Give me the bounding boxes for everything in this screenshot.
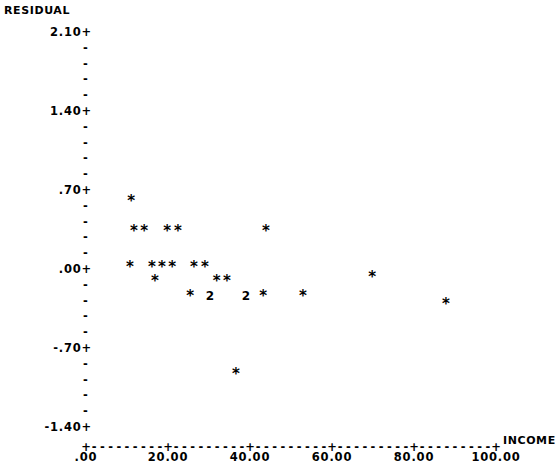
x-axis-title: INCOME — [503, 434, 556, 447]
data-point-marker: * — [158, 259, 166, 274]
x-axis-tick-label: .00 — [75, 450, 98, 464]
y-axis-tick-label: 2.10+ — [0, 25, 92, 39]
x-axis-minor-tick: - — [289, 440, 294, 454]
y-axis-minor-tick: - — [83, 404, 88, 418]
x-axis-tick-label: 60.00 — [312, 450, 352, 464]
y-axis-minor-tick: - — [83, 246, 88, 260]
x-axis-tick-label: 40.00 — [230, 450, 270, 464]
data-point-marker: * — [223, 274, 231, 289]
x-axis-minor-tick: - — [453, 440, 458, 454]
y-axis-title: RESIDUAL — [4, 4, 70, 17]
x-axis-minor-tick: - — [272, 440, 277, 454]
data-point-marker: * — [213, 274, 221, 289]
data-point-marker: * — [130, 223, 138, 238]
y-axis-minor-tick: - — [83, 72, 88, 86]
x-axis-minor-tick: - — [198, 440, 203, 454]
data-point-marker: * — [140, 223, 148, 238]
y-axis-tick-label: -.70+ — [0, 341, 92, 355]
data-point-marker: * — [299, 289, 307, 304]
x-axis-minor-tick: - — [100, 440, 105, 454]
data-point-marker: * — [174, 223, 182, 238]
y-axis-minor-tick: - — [83, 278, 88, 292]
x-axis-minor-tick: - — [371, 440, 376, 454]
x-axis-tick-label: 80.00 — [394, 450, 434, 464]
y-axis-minor-tick: - — [83, 215, 88, 229]
y-axis-minor-tick: - — [83, 373, 88, 387]
data-point-marker: * — [151, 274, 159, 289]
data-point-overlap-marker: 2 — [242, 290, 250, 302]
data-point-marker: * — [126, 259, 134, 274]
x-axis-minor-tick: - — [215, 440, 220, 454]
x-axis-minor-tick: - — [223, 440, 228, 454]
y-axis-minor-tick: - — [83, 325, 88, 339]
y-axis-minor-tick: - — [83, 136, 88, 150]
data-point-marker: * — [368, 269, 376, 284]
x-axis-minor-tick: - — [461, 440, 466, 454]
y-axis-minor-tick: - — [83, 167, 88, 181]
y-axis-minor-tick: - — [83, 309, 88, 323]
x-axis-minor-tick: - — [116, 440, 121, 454]
y-axis-tick-label: .70+ — [0, 183, 92, 197]
x-axis-minor-tick: - — [444, 440, 449, 454]
y-axis-tick-label: 1.40+ — [0, 104, 92, 118]
y-axis-minor-tick: - — [83, 151, 88, 165]
x-axis-minor-tick: - — [362, 440, 367, 454]
y-axis-minor-tick: - — [83, 57, 88, 71]
data-point-marker: * — [190, 259, 198, 274]
x-axis-minor-tick: - — [305, 440, 310, 454]
x-axis-minor-tick: - — [280, 440, 285, 454]
data-point-marker: * — [201, 259, 209, 274]
x-axis-tick-label: 20.00 — [148, 450, 188, 464]
x-axis-minor-tick: - — [108, 440, 113, 454]
data-point-marker: * — [168, 259, 176, 274]
data-point-marker: * — [259, 289, 267, 304]
data-point-overlap-marker: 2 — [206, 290, 214, 302]
x-axis-minor-tick: - — [125, 440, 130, 454]
x-axis-minor-tick: - — [141, 440, 146, 454]
x-axis-minor-tick: - — [379, 440, 384, 454]
x-axis-minor-tick: - — [354, 440, 359, 454]
data-point-marker: * — [232, 366, 240, 381]
y-axis-minor-tick: - — [83, 88, 88, 102]
data-point-marker: * — [163, 223, 171, 238]
y-axis-tick-label: -1.40+ — [0, 420, 92, 434]
x-axis-tick-label: 100.00 — [471, 450, 520, 464]
x-axis-minor-tick: - — [297, 440, 302, 454]
x-axis-minor-tick: - — [436, 440, 441, 454]
y-axis-minor-tick: - — [83, 41, 88, 55]
data-point-marker: * — [442, 296, 450, 311]
data-point-marker: * — [186, 289, 194, 304]
y-axis-minor-tick: - — [83, 199, 88, 213]
x-axis-minor-tick: - — [207, 440, 212, 454]
y-axis-minor-tick: - — [83, 388, 88, 402]
data-point-marker: * — [127, 194, 135, 209]
x-axis-minor-tick: - — [133, 440, 138, 454]
x-axis-minor-tick: - — [190, 440, 195, 454]
y-axis-minor-tick: - — [83, 294, 88, 308]
x-axis-minor-tick: - — [387, 440, 392, 454]
data-point-marker: * — [262, 223, 270, 238]
y-axis-minor-tick: - — [83, 230, 88, 244]
y-axis-minor-tick: - — [83, 120, 88, 134]
y-axis-tick-label: .00+ — [0, 262, 92, 276]
y-axis-minor-tick: - — [83, 357, 88, 371]
